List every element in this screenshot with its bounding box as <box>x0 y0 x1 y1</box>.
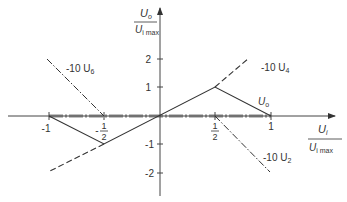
curve-u4-lower <box>48 144 104 172</box>
y-tick-neg1: -1 <box>145 139 154 150</box>
x-tick-half-den: 2 <box>212 132 217 142</box>
y-tick-neg2: -2 <box>145 168 154 179</box>
x-tick-neg1: -1 <box>42 123 51 134</box>
curve-u2 <box>215 116 270 172</box>
label-u2: -10 U2 <box>263 152 291 164</box>
curve-u4-upper <box>215 58 249 87</box>
x-tick-neghalf-sign: - <box>95 125 98 136</box>
svg-text:Ui: Ui <box>318 123 328 136</box>
x-axis-label: Ui Ui max <box>308 123 342 154</box>
transfer-characteristic-diagram: 2 1 -1 -2 -1 - 1 2 1 2 1 Uo Ui max Ui Ui… <box>0 0 347 202</box>
x-tick-1: 1 <box>268 121 274 132</box>
label-u4: -10 U4 <box>261 62 289 74</box>
y-tick-1: 1 <box>145 82 151 93</box>
y-tick-2: 2 <box>145 54 151 65</box>
svg-text:Uo: Uo <box>140 7 152 20</box>
x-tick-neghalf-num: 1 <box>101 121 106 131</box>
svg-text:Ui max: Ui max <box>309 142 333 154</box>
x-tick-half-num: 1 <box>212 121 217 131</box>
y-axis-label: Uo Ui max <box>134 7 159 36</box>
label-uo: Uo <box>258 96 269 108</box>
svg-text:Ui max: Ui max <box>135 24 159 36</box>
label-u6: -10 U6 <box>66 63 94 75</box>
x-tick-neghalf-den: 2 <box>101 132 106 142</box>
